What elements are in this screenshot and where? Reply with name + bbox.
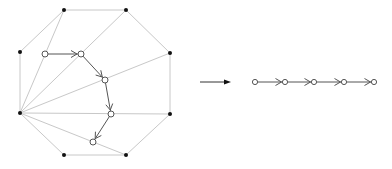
diagonal-edge (20, 113, 170, 114)
vertex-dot (168, 51, 172, 55)
path-node (102, 77, 108, 83)
vertex-dot (62, 153, 66, 157)
dual-path-nodes (42, 51, 114, 145)
path-node (42, 51, 48, 57)
chain-node (311, 79, 316, 84)
transform-arrow-icon (200, 80, 231, 85)
diagonal-edge (20, 113, 126, 155)
chain-node (282, 79, 287, 84)
path-edge (93, 114, 111, 142)
octagon-edge (126, 10, 170, 53)
octagon-edge (126, 114, 170, 155)
octagon-edge (20, 113, 64, 155)
vertex-dot (124, 8, 128, 12)
dual-path-edges (45, 51, 113, 143)
chain-node (371, 79, 376, 84)
octagon-edge (20, 10, 64, 52)
path-node (108, 111, 114, 117)
diagonal-edge (20, 53, 170, 113)
diagonal-edge (20, 10, 126, 113)
vertex-dot (124, 153, 128, 157)
triangulation-diagram (0, 0, 392, 169)
chain-node (252, 79, 257, 84)
vertex-dot (18, 111, 22, 115)
linear-chain (252, 79, 376, 86)
arrow-head-icon (224, 80, 231, 85)
vertex-dot (62, 8, 66, 12)
path-node (90, 139, 96, 145)
path-node (78, 51, 84, 57)
path-edge (81, 54, 105, 80)
vertex-dot (18, 50, 22, 54)
vertex-dot (168, 112, 172, 116)
path-edge (105, 80, 111, 114)
chain-node (341, 79, 346, 84)
